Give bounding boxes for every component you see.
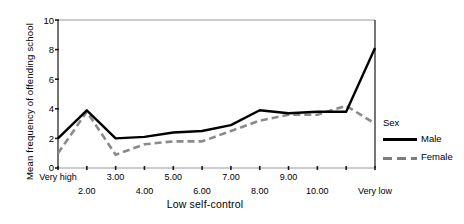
x-tick-9-00: 9.00 — [259, 172, 319, 182]
x-tick-7-00: 7.00 — [201, 172, 261, 182]
dashed-line-swatch — [383, 157, 417, 160]
x-tick-6-00: 6.00 — [172, 186, 232, 196]
x-tick-very-high: Very high — [28, 172, 88, 182]
legend-label-female: Female — [421, 151, 453, 162]
solid-line-swatch — [383, 138, 417, 141]
series-line-male — [58, 48, 375, 138]
x-tick-very-low: Very low — [345, 186, 405, 196]
x-tick-5-00: 5.00 — [143, 172, 203, 182]
legend-label-male: Male — [421, 133, 442, 144]
x-tick-3-00: 3.00 — [86, 172, 146, 182]
series-line-female — [58, 106, 375, 155]
x-tick-10-00: 10.00 — [287, 186, 347, 196]
x-tick-8-00: 8.00 — [230, 186, 290, 196]
x-axis-title: Low self-control — [120, 198, 290, 210]
chart-figure: Mean frequency of offending school 10 8 … — [0, 0, 464, 224]
x-tick-4-00: 4.00 — [114, 186, 174, 196]
x-tick-2-00: 2.00 — [57, 186, 117, 196]
legend-title: Sex — [383, 117, 399, 128]
